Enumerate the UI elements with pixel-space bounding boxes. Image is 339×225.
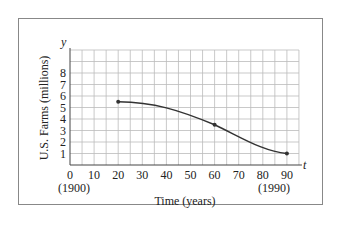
y-tick-label: 8 [60,66,66,80]
x-tick-label: 30 [136,168,148,182]
x-tick-label: 40 [160,168,172,182]
x-tick-label: 0 [67,168,73,182]
data-point-marker [116,100,120,104]
y-axis-var: y [60,35,67,49]
x-sublabel-1990: (1990) [258,181,290,195]
x-tick-label: 80 [257,168,269,182]
x-tick-label: 90 [281,168,293,182]
x-axis-var: t [303,158,307,172]
data-point-marker [285,152,289,156]
chart-svg: 010203040506070809012345678 y t (1900) (… [0,0,339,225]
y-axis-label: U.S. Farms (millions) [37,56,51,161]
x-tick-label: 20 [112,168,124,182]
x-tick-label: 10 [88,168,100,182]
axes [70,48,302,165]
x-tick-label: 70 [233,168,245,182]
x-tick-label: 50 [185,168,197,182]
data-point-marker [213,123,217,127]
x-tick-label: 60 [209,168,221,182]
x-sublabel-1900: (1900) [58,181,90,195]
x-axis-label: Time (years) [154,194,215,208]
